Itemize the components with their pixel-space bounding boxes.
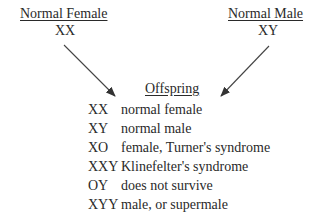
offspring-row: OYdoes not survive	[88, 176, 213, 195]
female-parent-label: Normal Female	[20, 6, 107, 22]
male-parent-label: Normal Male	[228, 6, 303, 22]
offspring-genotype: XXY	[88, 157, 121, 176]
male-to-offspring-arrow	[221, 46, 269, 96]
offspring-description: normal male	[121, 121, 191, 136]
offspring-row: XXYKlinefelter's syndrome	[88, 157, 248, 176]
offspring-row: XOfemale, Turner's syndrome	[88, 138, 270, 157]
offspring-genotype: XO	[88, 138, 121, 157]
female-parent-genotype: XX	[55, 23, 75, 39]
female-to-offspring-arrow	[64, 45, 115, 96]
offspring-description: Klinefelter's syndrome	[121, 159, 248, 174]
offspring-row: XYYmale, or supermale	[88, 195, 228, 214]
offspring-title: Offspring	[145, 81, 199, 97]
offspring-description: does not survive	[121, 178, 213, 193]
offspring-genotype: XYY	[88, 195, 121, 214]
offspring-row: XYnormal male	[88, 119, 191, 138]
offspring-description: female, Turner's syndrome	[121, 140, 270, 155]
offspring-genotype: OY	[88, 176, 121, 195]
offspring-description: normal female	[121, 102, 202, 117]
offspring-genotype: XY	[88, 119, 121, 138]
male-parent-genotype: XY	[258, 23, 278, 39]
offspring-description: male, or supermale	[121, 197, 228, 212]
offspring-row: XXnormal female	[88, 100, 202, 119]
offspring-genotype: XX	[88, 100, 121, 119]
